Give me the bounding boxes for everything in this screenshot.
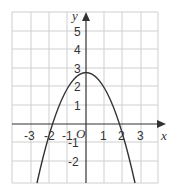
svg-text:3: 3 [137, 129, 144, 143]
svg-text:4: 4 [74, 43, 81, 57]
parabola-graph: x y O -3 -2 -1 1 2 3 5 4 3 2 1 -1 -2 [0, 0, 171, 193]
y-axis-label: y [70, 8, 78, 23]
svg-text:-3: -3 [24, 129, 35, 143]
x-axis-arrow-icon [157, 120, 166, 128]
svg-text:1: 1 [74, 99, 81, 113]
y-tick-labels: 5 4 3 2 1 -1 -2 [68, 25, 81, 169]
svg-text:2: 2 [74, 80, 81, 94]
x-axis-label: x [160, 128, 167, 143]
svg-text:3: 3 [74, 62, 81, 76]
svg-text:-2: -2 [68, 155, 79, 169]
svg-text:5: 5 [74, 25, 81, 39]
svg-text:-2: -2 [44, 129, 55, 143]
y-axis-arrow-icon [82, 12, 90, 21]
grid [12, 12, 158, 183]
svg-text:2: 2 [118, 129, 125, 143]
svg-text:-1: -1 [68, 136, 79, 150]
axes [12, 18, 160, 183]
svg-text:1: 1 [100, 129, 107, 143]
